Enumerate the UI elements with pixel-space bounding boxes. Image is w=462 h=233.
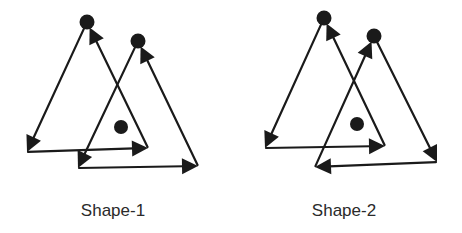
edge-line — [147, 59, 198, 165]
edge-line — [266, 146, 371, 148]
edge-line — [33, 26, 85, 140]
edge-line — [84, 45, 136, 156]
edge-line — [329, 162, 436, 166]
shape-2-triangle-b — [315, 29, 437, 175]
shape-2-triangle-a — [264, 11, 385, 155]
edge-line — [271, 22, 323, 136]
center-dot-icon — [350, 117, 364, 131]
diagram-canvas — [0, 0, 462, 233]
edge-line — [376, 40, 431, 150]
shape-1-label: Shape-1 — [81, 201, 145, 221]
shape-1-triangle-a — [26, 15, 148, 157]
apex-dot-icon — [80, 15, 95, 30]
edge-line — [79, 166, 184, 168]
shape-1-figure — [26, 15, 198, 175]
shape-2-label: Shape-2 — [312, 201, 376, 221]
apex-dot-icon — [131, 34, 146, 49]
apex-dot-icon — [367, 29, 382, 44]
apex-dot-icon — [317, 11, 332, 26]
edge-line — [315, 54, 365, 166]
center-dot-icon — [114, 120, 128, 134]
edge-line — [28, 148, 134, 152]
shape-2-figure — [264, 11, 437, 175]
